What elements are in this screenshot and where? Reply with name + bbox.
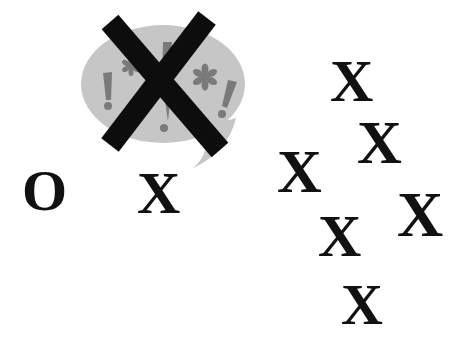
x-cluster-mark-1: X xyxy=(330,51,373,111)
x-mark: X xyxy=(137,163,180,223)
x-cluster-mark-4: X xyxy=(397,183,443,247)
speech-bubble-graphic xyxy=(0,0,475,348)
o-mark: O xyxy=(22,162,67,220)
x-cluster-mark-5: X xyxy=(318,206,361,266)
x-cluster-mark-2: X xyxy=(357,111,402,173)
x-cluster-mark-6: X xyxy=(341,276,383,334)
x-cluster-mark-3: X xyxy=(277,140,322,202)
illustration: O X X X X X X X xyxy=(0,0,475,348)
